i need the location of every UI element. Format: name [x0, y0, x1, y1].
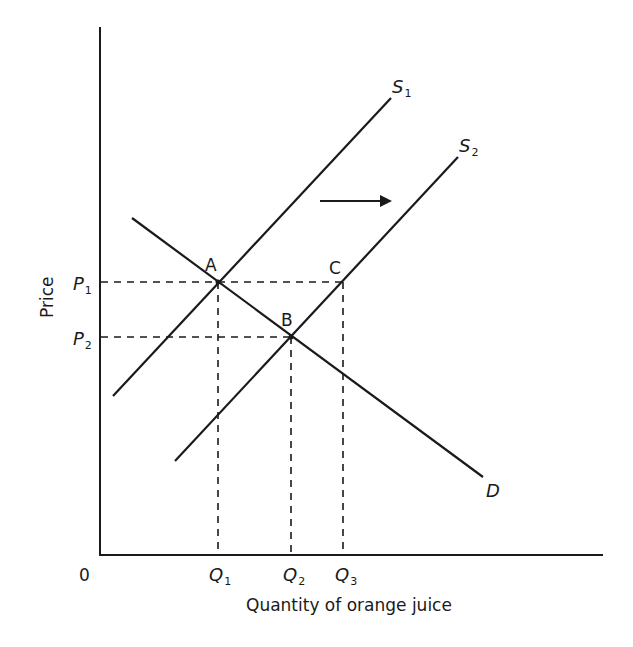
- q3-label: Q3: [335, 564, 357, 588]
- guide-lines: [101, 282, 343, 554]
- demand-curve: [132, 218, 483, 477]
- origin-label: 0: [79, 565, 90, 585]
- q1-label: Q1: [209, 564, 231, 588]
- supply-curve-s1: [113, 98, 391, 396]
- s1-label: S1: [392, 76, 411, 100]
- point-a-label: A: [205, 255, 217, 275]
- y-axis-title: Price: [37, 277, 57, 318]
- p1-label: P1: [73, 273, 92, 297]
- point-b-label: B: [281, 310, 293, 330]
- point-b-dot: [289, 335, 294, 340]
- q2-label: Q2: [283, 564, 305, 588]
- s2-label: S2: [459, 135, 478, 159]
- x-axis-title: Quantity of orange juice: [246, 595, 452, 615]
- point-a-dot: [216, 280, 221, 285]
- supply-demand-diagram: A B C S1 S2 D P1 P2 Q1 Q2 Q3 0 Quantity …: [0, 0, 633, 647]
- p2-label: P2: [73, 328, 92, 352]
- point-c-label: C: [329, 258, 341, 278]
- d-label: D: [486, 480, 500, 501]
